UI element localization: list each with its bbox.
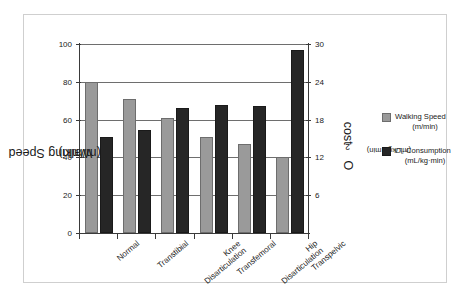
x-axis-tick xyxy=(155,234,156,239)
bar-o2-consumption xyxy=(291,50,304,233)
legend-item-o2-consumption: O₂ Consumption (mL/kg·min) xyxy=(382,146,467,166)
gridline xyxy=(79,195,308,196)
bar-o2-consumption xyxy=(176,108,189,233)
x-axis-category-label: KneeDisarticulation xyxy=(197,239,249,286)
x-axis-tick xyxy=(194,234,195,239)
y-axis-right-title-line1: O2 cost xyxy=(325,127,369,173)
legend-label-o2-consumption: O₂ Consumption xyxy=(395,146,467,155)
y-axis-right-tick-label: 30 xyxy=(315,40,337,49)
x-axis-tick xyxy=(270,234,271,239)
legend-swatch-o2-consumption xyxy=(382,147,391,156)
bar-walking-speed xyxy=(200,137,213,233)
legend-swatch-walking-speed xyxy=(382,113,391,122)
bar-walking-speed xyxy=(123,99,136,233)
chart-legend: Walking Speed (m/min) O₂ Consumption (mL… xyxy=(382,112,467,180)
legend-units-walking-speed: (m/min) xyxy=(382,122,467,131)
bar-o2-consumption xyxy=(215,105,228,233)
x-axis-tick xyxy=(117,234,118,239)
chart-frame: 020406080100612182430NormalTranstibialKn… xyxy=(23,14,447,283)
x-axis-category-label: Normal xyxy=(115,239,141,263)
bar-walking-speed xyxy=(276,157,289,233)
x-axis-category-label: Transtibial xyxy=(156,239,191,270)
y-axis-right-tick-label: 6 xyxy=(315,191,337,200)
x-axis-tick xyxy=(308,234,309,239)
gridline xyxy=(79,82,308,83)
y-axis-left-tick-label: 100 xyxy=(50,40,72,49)
x-axis-tick xyxy=(232,234,233,239)
legend-label-walking-speed: Walking Speed xyxy=(395,112,467,121)
y-axis-left-title: Walking Speed (m/min) xyxy=(48,58,82,247)
gridline xyxy=(79,44,308,45)
y-axis-right-tick-label: 24 xyxy=(315,78,337,87)
y-axis-left-title-line2: (m/min) xyxy=(38,145,122,159)
bar-o2-consumption xyxy=(253,106,266,233)
bar-o2-consumption xyxy=(138,130,151,233)
legend-item-walking-speed: Walking Speed (m/min) xyxy=(382,112,467,132)
gridline xyxy=(79,120,308,121)
legend-label-o2-text: O₂ Consumption xyxy=(395,146,451,155)
y-axis-right-title: O2 cost (mL/kg · min) xyxy=(342,75,376,225)
bar-walking-speed xyxy=(161,118,174,233)
y-axis-right-tick-label: 18 xyxy=(315,116,337,125)
legend-units-o2-consumption: (mL/kg·min) xyxy=(382,156,467,165)
y-axis-right-line xyxy=(308,43,309,234)
bar-walking-speed xyxy=(238,144,251,233)
